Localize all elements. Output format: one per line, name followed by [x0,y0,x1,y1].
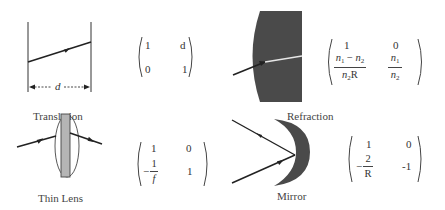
fraction-denominator: n2 [391,69,400,83]
fraction-numerator: n1 − n2 [336,52,365,66]
distance-arrowhead-right-icon [84,85,90,90]
matrix-a: 1 [145,40,151,51]
outgoing-ray-line [70,133,102,144]
matrix-d: -1 [402,161,411,172]
mirror-label: Mirror [277,190,306,202]
matrix-b: d [180,40,186,51]
matrix-c-sign: − [143,166,149,177]
matrix-c-fraction: 2 R [363,153,373,179]
reflected-ray-arrow-icon [256,133,262,138]
matrix-d: 1 [182,64,188,75]
curved-mirror [274,119,310,186]
matrix-d: 1 [187,166,193,177]
matrix-a: 1 [151,143,157,154]
ray-line [28,42,91,62]
right-paren [417,135,425,183]
lens-plate [61,114,70,177]
incoming-ray-line [17,136,56,147]
matrix-b: 0 [186,143,192,154]
left-paren [135,36,143,78]
right-paren [203,141,211,187]
fraction-denominator: f [153,173,156,185]
matrix-c-fraction: 1 f [150,158,158,184]
distance-label: d [55,80,61,92]
thin-lens-diagram [0,110,115,185]
fraction-bar [334,67,366,68]
right-paren [416,38,426,86]
matrix-b: 0 [393,40,399,51]
fraction-bar [150,171,158,172]
left-paren [134,141,142,187]
matrix-c-fraction: n1 − n2 n2R [334,52,366,82]
matrix-d-fraction: n1 n2 [388,52,402,82]
distance-arrowhead-left-icon [29,85,35,90]
thin-lens-label: Thin Lens [38,192,83,204]
matrix-b: 0 [406,139,412,150]
matrix-a: 1 [366,139,372,150]
left-paren [345,135,353,183]
fraction-bar [363,166,373,167]
fraction-denominator: n2R [342,69,358,83]
mirror-diagram [220,115,330,190]
left-paren [324,38,334,86]
matrix-c: 0 [145,64,151,75]
fraction-bar [388,67,402,68]
matrix-c-sign: − [356,161,362,172]
fraction-numerator: 1 [151,158,156,170]
fraction-denominator: R [364,168,371,180]
fraction-numerator: n1 [391,52,400,66]
refraction-diagram [220,0,330,110]
fraction-numerator: 2 [365,153,370,165]
right-paren [188,36,196,78]
matrix-a: 1 [344,40,350,51]
